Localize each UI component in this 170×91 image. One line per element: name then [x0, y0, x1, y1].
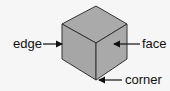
edge-label: edge — [13, 36, 42, 51]
face-label: face — [142, 36, 167, 51]
corner-label: corner — [125, 72, 163, 87]
cube-diagram: edge face corner — [0, 0, 170, 91]
edge-callout: edge — [13, 36, 62, 51]
cube — [62, 6, 127, 80]
corner-callout: corner — [99, 72, 163, 87]
